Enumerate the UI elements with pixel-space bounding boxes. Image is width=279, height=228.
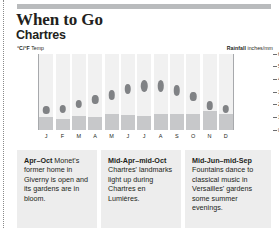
rainfall-bar (56, 119, 70, 130)
temperature-dot (206, 101, 213, 109)
caption-block: Apr–Oct Monet's former home in Giverny i… (17, 150, 97, 228)
month-label: A (88, 133, 102, 139)
rainfall-bar (72, 116, 86, 130)
month-column (203, 54, 217, 130)
month-label: M (105, 133, 119, 139)
month-column (56, 54, 70, 130)
right-axis-tick: 1/25 (278, 115, 279, 120)
chart-plot-area: 40/10430/8620/6810/500/32-10/14 6/1505/1… (38, 54, 234, 130)
month-column (121, 54, 135, 130)
temperature-dot (223, 105, 230, 113)
temperature-axis-caption-label: Temp (30, 45, 44, 51)
month-column (170, 54, 184, 130)
right-axis-tick: 6/150 (278, 52, 279, 57)
right-axis-tick: 5/125 (278, 64, 279, 69)
temperature-dot (190, 92, 197, 102)
rainfall-bar (219, 114, 233, 130)
caption-blocks: Apr–Oct Monet's former home in Giverny i… (0, 150, 279, 228)
month-label: N (203, 133, 217, 139)
temperature-dot (43, 106, 50, 114)
caption-text: Chartres' landmarks light up during Char… (108, 165, 172, 202)
caption-term: Mid-Apr–mid-Oct (108, 156, 166, 165)
rainfall-bar (39, 117, 53, 130)
header-accent-bar (17, 4, 271, 9)
caption-text: Fountains dance to classical music in Ve… (192, 165, 253, 212)
rainfall-bar (88, 117, 102, 130)
temperature-dot (174, 85, 181, 96)
rainfall-bar (121, 115, 135, 130)
temperature-dot (157, 80, 164, 91)
right-axis-tick: 0 (278, 128, 279, 133)
temperature-dot (92, 95, 99, 104)
rainfall-axis-caption: Rainfall inches/mm (227, 45, 273, 51)
month-column (72, 54, 86, 130)
month-label: A (154, 133, 168, 139)
rainfall-bar (154, 114, 168, 130)
temperature-axis-caption-units: °C/°F (17, 45, 30, 51)
page-title: When to Go (16, 11, 103, 28)
month-column (186, 54, 200, 130)
caption-block: Mid-Jun–mid-Sep Fountains dance to class… (185, 150, 271, 228)
month-column (219, 54, 233, 130)
month-label: S (170, 133, 184, 139)
month-label: J (137, 133, 151, 139)
month-column (154, 54, 168, 130)
rainfall-axis-caption-label: Rainfall (227, 45, 246, 51)
right-axis-tick: 4/100 (278, 77, 279, 82)
caption-block: Mid-Apr–mid-Oct Chartres' landmarks ligh… (101, 150, 181, 228)
temperature-axis-caption: °C/°F Temp (17, 45, 44, 51)
rainfall-bar (105, 114, 119, 130)
when-to-go-infographic: When to Go Chartres °C/°F Temp Rainfall … (0, 0, 279, 228)
right-axis-tick: 3/75 (278, 90, 279, 95)
rainfall-bar (170, 114, 184, 130)
temperature-dot (108, 90, 115, 100)
rainfall-bar (203, 111, 217, 130)
right-axis-line (233, 54, 234, 130)
month-column (105, 54, 119, 130)
month-label: D (219, 133, 233, 139)
climate-chart: 40/10430/8620/6810/500/32-10/14 6/1505/1… (0, 52, 279, 142)
caption-term: Apr–Oct (24, 156, 52, 165)
month-column (88, 54, 102, 130)
page-subtitle: Chartres (16, 29, 66, 42)
month-column (39, 54, 53, 130)
temperature-dot (141, 80, 148, 91)
rainfall-bar (186, 114, 200, 130)
month-column (137, 54, 151, 130)
temperature-dot (125, 84, 132, 95)
right-axis-tick: 2/50 (278, 102, 279, 107)
caption-term: Mid-Jun–mid-Sep (192, 156, 252, 165)
temperature-dot (76, 100, 83, 109)
month-label: J (39, 133, 53, 139)
rainfall-axis-caption-units: inches/mm (246, 45, 273, 51)
rainfall-bar (137, 116, 151, 130)
temperature-dot (59, 105, 66, 113)
month-label: M (72, 133, 86, 139)
month-label: J (121, 133, 135, 139)
month-label: O (186, 133, 200, 139)
month-label: F (56, 133, 70, 139)
